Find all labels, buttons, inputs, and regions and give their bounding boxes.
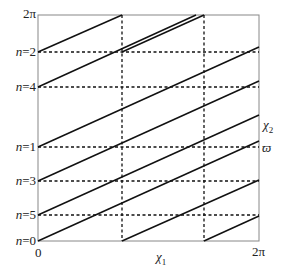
x-end-label: 2π [252,245,265,258]
level-value: 3 [30,173,37,188]
right-label-varpi: ϖ [262,141,271,154]
level-label-n0: n=0 [0,234,36,247]
level-value: 4 [30,79,37,94]
chi-subscript: 2 [269,125,274,135]
torus-winding-diagram [0,0,285,277]
chi-subscript: 1 [162,257,167,267]
level-eq: = [22,173,29,188]
level-value: 2 [30,44,37,59]
level-eq: = [22,207,29,222]
right-label-chi2: χ2 [263,118,273,137]
y-top-label: 2π [0,7,36,20]
x-origin-label: 0 [35,246,42,259]
level-value: 5 [30,207,37,222]
level-label-n3: n=3 [0,174,36,187]
plot-frame [38,15,259,241]
level-eq: = [22,233,29,248]
vertical-dividers [122,15,204,241]
level-label-n4: n=4 [0,80,36,93]
level-eq: = [22,44,29,59]
level-label-n5: n=5 [0,208,36,221]
level-label-n1: n=1 [0,140,36,153]
level-label-n2: n=2 [0,45,36,58]
level-eq: = [22,139,29,154]
x-axis-label-chi1: χ1 [156,250,166,269]
level-eq: = [22,79,29,94]
winding-trajectory [38,15,259,241]
level-value: 1 [30,139,37,154]
